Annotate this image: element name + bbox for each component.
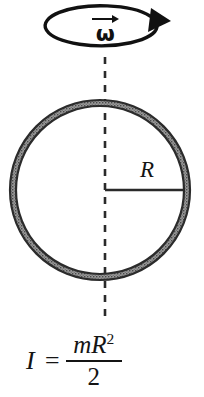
formula-numerator: mR2 — [69, 332, 118, 360]
radius-label: R — [140, 158, 154, 181]
vector-arrow-icon — [92, 14, 118, 23]
moment-of-inertia-formula: I = mR2 2 — [26, 330, 186, 392]
formula-fraction: mR2 2 — [66, 332, 122, 391]
formula-left-hand-side: I = — [26, 346, 66, 376]
omega-glyph: ω — [87, 24, 123, 44]
formula-numerator-base: mR — [73, 331, 106, 358]
angular-velocity-symbol: ω — [87, 14, 123, 44]
formula-denominator: 2 — [87, 362, 100, 390]
physics-diagram: ω R I = mR2 2 — [0, 0, 204, 397]
formula-numerator-exponent: 2 — [106, 329, 114, 346]
